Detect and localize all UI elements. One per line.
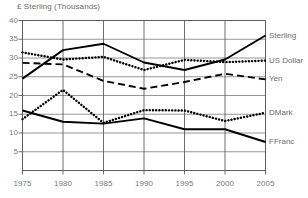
y-ticklabel-35: 35 [0, 34, 18, 43]
legend-label-dmark: DMark [269, 108, 293, 117]
y-ticklabel-10: 10 [0, 128, 18, 137]
x-ticklabel-2005: 2005 [249, 179, 283, 188]
line-chart: £ Sterling (Thousands) 403530252015105 1… [0, 0, 308, 198]
y-ticklabel-40: 40 [0, 16, 18, 25]
legend-label-ffranc: FFranc [269, 137, 294, 146]
x-ticklabel-1980: 1980 [46, 179, 80, 188]
y-ticklabel-15: 15 [0, 109, 18, 118]
x-ticklabel-1985: 1985 [87, 179, 121, 188]
y-ticklabel-30: 30 [0, 53, 18, 62]
x-ticklabel-1975: 1975 [6, 179, 40, 188]
y-ticklabel-5: 5 [0, 147, 18, 156]
x-ticklabel-2000: 2000 [208, 179, 242, 188]
legend-label-us-dollar: US Dollar [269, 56, 303, 65]
plot-area [0, 0, 308, 198]
legend-label-sterling: Sterling [269, 31, 296, 40]
x-tick-marks [23, 171, 266, 175]
x-ticklabel-1990: 1990 [127, 179, 161, 188]
y-tick-marks [19, 21, 23, 152]
legend-label-yen: Yen [269, 74, 283, 83]
y-ticklabel-20: 20 [0, 91, 18, 100]
y-ticklabel-25: 25 [0, 72, 18, 81]
x-ticklabel-1995: 1995 [168, 179, 202, 188]
